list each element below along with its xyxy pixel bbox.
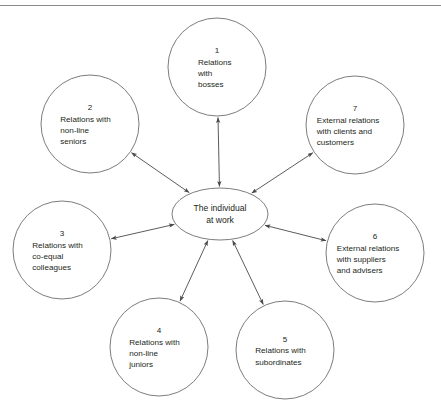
node-circle-3[interactable]: 3Relations withco-equalcolleagues [13,201,111,299]
node-label-1-line-3: bosses [198,80,224,89]
node-circle-6[interactable]: 6External relationswith suppliersand adv… [326,204,424,302]
node-label-2-line-2: non-line [60,126,89,135]
connector-arrow-4 [180,241,208,302]
node-outline-1 [168,18,266,116]
node-number-1: 1 [215,46,220,55]
node-label-3-line-1: Relations with [32,241,82,250]
node-circle-7[interactable]: 7External relationswith clients andcusto… [306,76,404,174]
node-label-4-line-3: juniors [128,360,153,369]
connector-arrow-7 [252,153,313,193]
node-number-7: 7 [353,104,358,113]
center-node[interactable]: The individualat work [172,188,268,240]
node-label-2-line-3: seniors [60,137,86,146]
node-label-6-line-3: and advisers [337,266,383,275]
node-label-1-line-2: with [197,69,212,78]
node-circle-4[interactable]: 4Relations withnon-linejuniors [110,298,208,396]
center-node-label-line-1: The individual [193,203,246,213]
relationship-diagram: 1Relationswithbosses2Relations withnon-l… [0,0,441,410]
figure-caption [8,398,408,408]
node-number-5: 5 [283,335,288,344]
node-circle-5[interactable]: 5Relations withsubordinates [236,301,334,399]
node-label-7-line-1: External relations [317,116,380,125]
node-number-4: 4 [157,326,162,335]
node-outline-4 [110,298,208,396]
center-node-layer: The individualat work [172,188,268,240]
node-label-5-line-2: subordinates [255,358,301,367]
node-label-7-line-2: with clients and [316,127,372,136]
connector-arrow-3 [111,224,174,238]
node-label-2-line-1: Relations with [60,115,110,124]
node-circle-1[interactable]: 1Relationswithbosses [168,18,266,116]
connector-arrow-2 [132,153,190,193]
node-number-3: 3 [60,229,65,238]
node-label-4-line-1: Relations with [129,338,179,347]
node-number-6: 6 [373,232,378,241]
node-label-1-line-1: Relations [198,58,232,67]
node-label-7-line-3: customers [317,138,354,147]
center-node-outline [172,188,268,240]
connector-arrow-6 [265,225,326,240]
node-circle-2[interactable]: 2Relations withnon-lineseniors [41,75,139,173]
node-number-2: 2 [88,103,93,112]
connector-arrow-1 [218,117,219,186]
node-outline-7 [306,76,404,174]
node-outline-6 [326,204,424,302]
figure-root: 1Relationswithbosses2Relations withnon-l… [0,0,441,410]
center-node-label-line-2: at work [206,215,234,225]
node-label-6-line-1: External relations [337,244,400,253]
node-label-3-line-3: colleagues [32,263,71,272]
node-label-6-line-2: with suppliers [336,255,386,264]
node-outline-3 [13,201,111,299]
node-label-5-line-1: Relations with [255,346,305,355]
node-outline-2 [41,75,139,173]
node-label-3-line-2: co-equal [32,252,63,261]
node-label-4-line-2: non-line [129,349,158,358]
connector-arrow-5 [233,241,264,305]
